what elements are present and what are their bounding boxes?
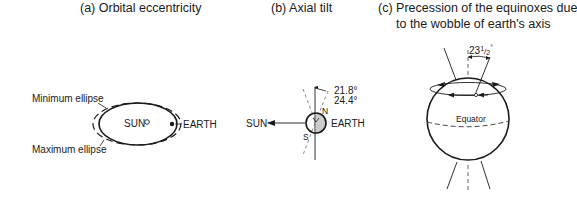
angle-label: 231/2° bbox=[469, 44, 493, 56]
sun-label: SUN bbox=[124, 118, 145, 129]
tilt-max-label: 24.4° bbox=[334, 95, 357, 106]
sun-label: SUN bbox=[246, 118, 267, 129]
panel-a-orbital-eccentricity: SUN EARTH Minimum ellipse Maximum ellips… bbox=[32, 93, 217, 155]
equator-label: Equator bbox=[456, 114, 486, 124]
earth-label: EARTH bbox=[183, 119, 217, 130]
maximum-ellipse-label: Maximum ellipse bbox=[32, 144, 107, 155]
sun-icon bbox=[145, 120, 150, 125]
earth-icon bbox=[170, 122, 174, 126]
minimum-ellipse-label: Minimum ellipse bbox=[32, 93, 104, 104]
panel-b-axial-tilt: SUN EARTH N S 21.8° 24.4° bbox=[246, 85, 365, 160]
north-label: N bbox=[322, 106, 328, 116]
panel-c-precession: Equator 231/2° bbox=[427, 44, 509, 192]
south-label: S bbox=[303, 132, 309, 142]
earth-label: EARTH bbox=[331, 118, 365, 129]
